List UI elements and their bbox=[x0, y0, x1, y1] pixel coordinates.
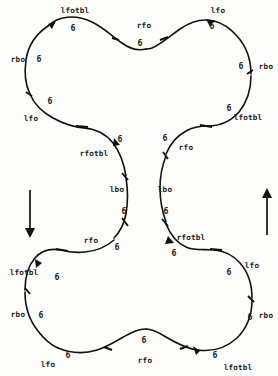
edge-label: rfo bbox=[138, 357, 152, 365]
right-direction-arrow bbox=[262, 188, 272, 235]
curve-bottom-left-inner bbox=[58, 329, 146, 352]
tracing-arrow-bottom-right bbox=[193, 346, 200, 355]
edge-label: rfotbl bbox=[80, 150, 109, 158]
count-label: 6 bbox=[71, 24, 76, 32]
tick-bottom-right bbox=[248, 296, 254, 302]
count-label: 6 bbox=[163, 134, 168, 142]
count-label: 6 bbox=[138, 39, 143, 47]
count-label: 6 bbox=[210, 22, 215, 30]
count-label: 6 bbox=[66, 351, 71, 359]
edge-label: lfo bbox=[245, 262, 259, 270]
count-label: 6 bbox=[115, 243, 120, 251]
tick-left-lower bbox=[56, 249, 68, 251]
curve-bottom-left-outer bbox=[25, 292, 58, 348]
count-label: 6 bbox=[164, 207, 169, 215]
count-label: 6 bbox=[122, 207, 127, 215]
count-label: 6 bbox=[55, 273, 60, 281]
count-label: 6 bbox=[239, 62, 244, 70]
curve-left-upper-descend bbox=[30, 94, 84, 128]
curve-right-lower-ascend bbox=[215, 250, 252, 298]
count-label: 6 bbox=[142, 336, 147, 344]
edge-label: rfo bbox=[179, 144, 193, 152]
edge-label: rbo bbox=[259, 63, 273, 71]
edge-label: rbo bbox=[259, 312, 273, 320]
edge-label: lfotbl bbox=[234, 114, 263, 122]
edge-label: rbo bbox=[11, 311, 25, 319]
figure-diagram-page: lfotbl lfo rfo rbo rbo lfo lfotbl rfotbl… bbox=[0, 0, 278, 376]
edge-label: rfo bbox=[137, 22, 151, 30]
curve-bottom-right-outer bbox=[198, 300, 252, 351]
edge-label: rbo bbox=[11, 56, 25, 64]
edge-label: lfotbl bbox=[224, 364, 253, 372]
edge-label: lfotbl bbox=[61, 7, 90, 15]
edge-label: lfo bbox=[24, 115, 38, 123]
count-label: 6 bbox=[213, 351, 218, 359]
count-label: 6 bbox=[48, 97, 53, 105]
count-label: 6 bbox=[227, 104, 232, 112]
count-label: 6 bbox=[37, 55, 42, 63]
edge-label: lbo bbox=[110, 186, 124, 194]
tick-left-waist-top bbox=[76, 126, 88, 127]
count-label: 6 bbox=[118, 135, 123, 143]
edge-label: lbo bbox=[158, 186, 172, 194]
curve-top-right-outer bbox=[214, 21, 251, 74]
curve-bottom-right-inner bbox=[146, 329, 198, 350]
count-label: 6 bbox=[172, 249, 177, 257]
left-direction-arrow bbox=[25, 190, 35, 238]
curve-top-right-inner bbox=[146, 20, 214, 49]
count-label: 6 bbox=[248, 313, 253, 321]
count-label: 6 bbox=[39, 311, 44, 319]
count-label: 6 bbox=[227, 268, 232, 276]
edge-label: rfotbl bbox=[177, 234, 206, 242]
edge-label: lfotbl bbox=[10, 269, 39, 277]
edge-label: lfo bbox=[41, 361, 55, 369]
tick-right-lower bbox=[210, 249, 222, 250]
edge-label: rfo bbox=[84, 237, 98, 245]
tick-bottom-center-l bbox=[104, 347, 112, 350]
curve-top-left-lobe bbox=[48, 17, 146, 50]
edge-label: lfo bbox=[211, 7, 225, 15]
tick-top-center-left bbox=[112, 38, 119, 40]
tick-right-upper bbox=[247, 70, 253, 74]
tracing-arrow-lower-left bbox=[35, 259, 42, 268]
